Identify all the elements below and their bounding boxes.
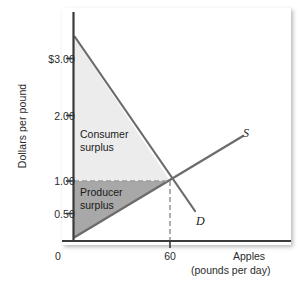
y-tick-label-300: $3.00	[48, 53, 75, 65]
y-tick-label-200: 2.00	[54, 110, 75, 122]
y-tick-label-050: 0.50	[54, 208, 75, 220]
y-axis-label: Dollars per pound	[16, 66, 28, 186]
producer-surplus-label-line1: Producer	[80, 186, 123, 198]
producer-surplus-label: Producer surplus	[80, 186, 123, 211]
x-axis-label: Apples	[233, 250, 265, 262]
producer-surplus-label-line2: surplus	[80, 199, 114, 211]
x-tick-label-0: 0	[50, 250, 66, 262]
consumer-surplus-label: Consumer surplus	[80, 128, 128, 153]
demand-curve-label: D	[196, 214, 205, 229]
consumer-surplus-region	[74, 37, 170, 181]
x-axis-label-units: (pounds per day)	[191, 264, 270, 276]
y-tick-label-100: 1.00	[54, 175, 75, 187]
x-tick-label-60: 60	[159, 250, 181, 262]
consumer-surplus-label-line1: Consumer	[80, 128, 128, 140]
supply-curve-label: S	[243, 126, 249, 141]
consumer-surplus-label-line2: surplus	[80, 141, 114, 153]
figure-container: $3.00 2.00 1.00 0.50 Dollars per pound 0…	[0, 0, 297, 298]
